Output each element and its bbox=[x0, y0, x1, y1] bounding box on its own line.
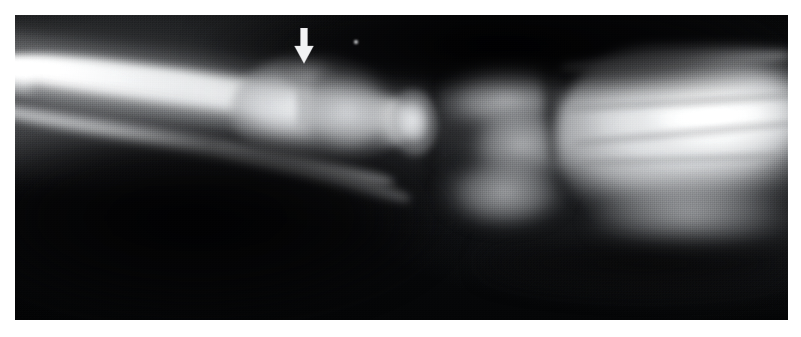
film-artifact-speck bbox=[354, 40, 358, 44]
figure-root bbox=[0, 0, 801, 337]
arrow-marker bbox=[293, 28, 315, 64]
radiograph-image bbox=[15, 15, 788, 320]
film-grain-overlay-fine bbox=[15, 15, 788, 320]
